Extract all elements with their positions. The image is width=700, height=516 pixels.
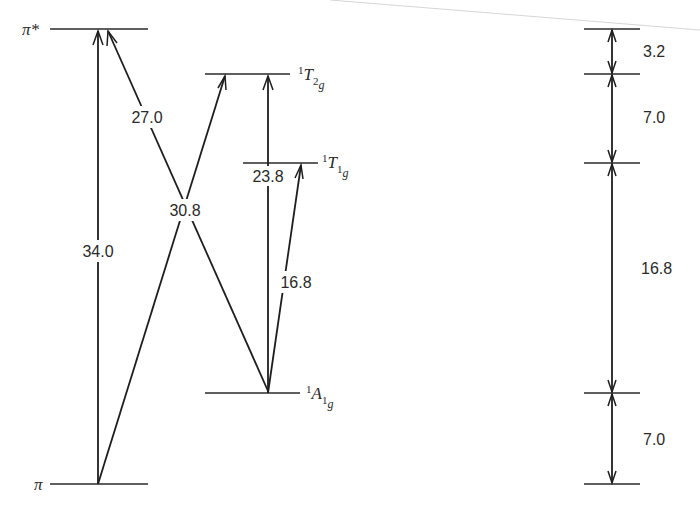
level-pi-star: π* xyxy=(22,20,148,39)
gap-value-label: 3.2 xyxy=(643,43,665,60)
energy-level-diagram: π* π 1T2g 1T1g 1A1g 34.0 27.0 xyxy=(0,0,700,516)
transition-pi-to-pistar: 34.0 xyxy=(76,31,120,484)
pi-star-label: π* xyxy=(22,20,40,39)
transition-A1g-to-T1g: 16.8 xyxy=(268,165,319,393)
gap-value-label: 7.0 xyxy=(643,431,665,448)
pi-label: π xyxy=(34,475,43,494)
scale-gap-3: 16.8 xyxy=(608,164,672,392)
gap-value-label: 7.0 xyxy=(643,109,665,126)
transition-value-label: 30.8 xyxy=(169,202,200,219)
scale-gap-1: 3.2 xyxy=(608,30,665,73)
transition-pi-to-T2g: 30.8 xyxy=(98,76,226,484)
transition-A1g-to-T2g: 23.8 xyxy=(246,76,290,393)
A1g-label: 1A1g xyxy=(306,383,333,411)
transition-value-label: 27.0 xyxy=(131,109,162,126)
gap-value-label: 16.8 xyxy=(641,260,672,277)
scale-gap-2: 7.0 xyxy=(608,75,665,162)
scale-gap-4: 7.0 xyxy=(608,394,665,483)
level-pi: π xyxy=(34,475,148,494)
transition-value-label: 23.8 xyxy=(252,168,283,185)
transition-value-label: 34.0 xyxy=(82,243,113,260)
transition-value-label: 16.8 xyxy=(280,274,311,291)
T2g-label: 1T2g xyxy=(298,64,324,92)
energy-gap-scale: 3.2 7.0 16.8 7.0 xyxy=(584,29,672,484)
T1g-label: 1T1g xyxy=(322,152,348,180)
arrow-line xyxy=(98,76,225,484)
scan-edge-line xyxy=(330,0,700,30)
level-T2g: 1T2g xyxy=(205,64,324,92)
